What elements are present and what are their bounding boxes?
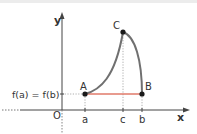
point-c [120,29,125,34]
x-axis-label: x [177,111,184,124]
point-a-label: A [80,81,87,92]
point-b-label: B [145,81,152,92]
tick-label-b: b [139,114,145,125]
rolle-theorem-diagram: y x O a c b f(a) = f(b) A B C [0,0,197,134]
y-axis-label: y [54,14,61,27]
tick-label-c: c [120,114,126,125]
function-curve [85,32,142,94]
point-a [82,91,87,96]
fa-equals-fb-label: f(a) = f(b) [12,89,59,100]
tick-label-a: a [82,114,88,125]
origin-label: O [53,110,61,121]
point-b [139,91,144,96]
point-c-label: C [113,20,120,31]
